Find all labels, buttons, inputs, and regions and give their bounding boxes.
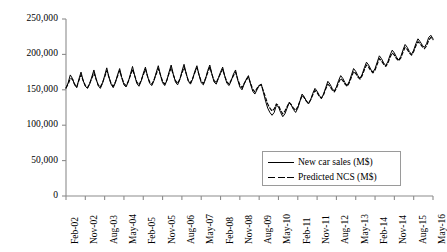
x-axis-tick-label: Aug-15 [418, 215, 428, 244]
x-axis-tick-label: Feb-02 [70, 217, 80, 244]
solid-line-icon [268, 158, 294, 168]
legend-item-predicted-ncs: Predicted NCS (M$) [268, 170, 395, 185]
x-axis-tick-label: Feb-14 [379, 217, 389, 244]
x-axis-tick-label: Aug-06 [186, 215, 196, 244]
x-axis-tick-label: Nov-14 [398, 215, 408, 244]
x-axis-tick-label: Aug-09 [263, 215, 273, 244]
x-axis-tick-label: May-13 [360, 214, 370, 244]
x-axis-tick-label: Feb-08 [225, 217, 235, 244]
dashed-line-icon [268, 173, 294, 183]
legend-label-predicted-ncs: Predicted NCS (M$) [298, 172, 377, 183]
x-axis-tick-label: Nov-02 [89, 215, 99, 244]
x-axis-tick-label: Nov-05 [167, 215, 177, 244]
legend-item-new-car-sales: New car sales (M$) [268, 155, 395, 170]
chart-legend: New car sales (M$) Predicted NCS (M$) [262, 151, 401, 186]
x-axis-tick-label: Feb-05 [147, 217, 157, 244]
x-axis-tick-label: Feb-11 [302, 217, 312, 244]
x-axis-tick-label: Nov-11 [321, 215, 331, 244]
x-axis-tick-label: May-07 [205, 214, 215, 244]
x-axis-tick-label: May-16 [437, 214, 447, 244]
x-axis-tick-label: Nov-08 [244, 215, 254, 244]
x-axis-tick-label: May-10 [282, 214, 292, 244]
x-axis-tick-label: Aug-03 [109, 215, 119, 244]
legend-label-new-car-sales: New car sales (M$) [298, 157, 373, 168]
x-axis-tick-label: May-04 [128, 214, 138, 244]
x-axis-tick-label: Aug-12 [340, 215, 350, 244]
